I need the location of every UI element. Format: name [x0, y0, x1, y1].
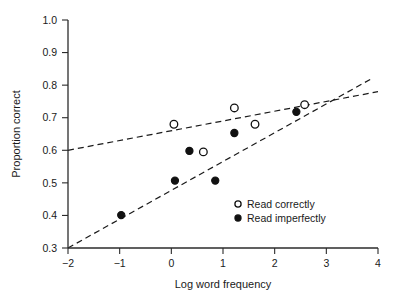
- data-point-read-correctly: [251, 120, 259, 128]
- data-point-read-imperfectly: [212, 177, 219, 184]
- data-point-read-correctly: [200, 148, 208, 156]
- y-tick-label: 0.5: [42, 177, 57, 189]
- axes-group: [68, 20, 378, 248]
- data-point-read-imperfectly: [231, 129, 238, 136]
- y-tick-label: 0.8: [42, 79, 57, 91]
- data-point-read-imperfectly: [171, 177, 178, 184]
- x-axis-ticks: −2−101234: [62, 248, 381, 269]
- fit-lines-group: [68, 78, 378, 248]
- legend-label-read-imperfectly: Read imperfectly: [247, 212, 327, 224]
- fit-line-read-imperfectly: [68, 78, 373, 248]
- x-tick-label: 3: [323, 257, 329, 269]
- data-point-read-correctly: [170, 120, 178, 128]
- y-tick-label: 0.6: [42, 144, 57, 156]
- x-axis-title: Log word frequency: [175, 278, 272, 290]
- x-tick-label: 2: [272, 257, 278, 269]
- y-tick-label: 0.7: [42, 111, 57, 123]
- data-point-read-correctly: [231, 104, 239, 112]
- x-tick-label: −1: [114, 257, 126, 269]
- x-tick-label: 1: [220, 257, 226, 269]
- legend-marker-read-imperfectly-icon: [235, 215, 241, 221]
- scatter-plot-figure: 0.30.40.50.60.70.80.91.0 −2−101234 Log w…: [0, 0, 399, 301]
- data-point-read-imperfectly: [186, 147, 193, 154]
- y-tick-label: 0.4: [42, 209, 57, 221]
- data-point-read-imperfectly: [293, 108, 300, 115]
- y-axis-ticks: 0.30.40.50.60.70.80.91.0: [42, 14, 68, 254]
- data-point-read-imperfectly: [118, 212, 125, 219]
- legend-label-read-correctly: Read correctly: [247, 198, 315, 210]
- x-tick-label: 0: [168, 257, 174, 269]
- y-tick-label: 1.0: [42, 14, 57, 26]
- legend-marker-read-correctly-icon: [235, 201, 241, 207]
- data-point-read-correctly: [301, 101, 309, 109]
- y-tick-label: 0.9: [42, 46, 57, 58]
- x-tick-label: −2: [62, 257, 74, 269]
- y-tick-label: 0.3: [42, 242, 57, 254]
- plot-canvas: 0.30.40.50.60.70.80.91.0 −2−101234 Log w…: [0, 0, 399, 301]
- x-tick-label: 4: [375, 257, 381, 269]
- y-axis-title: Proportion correct: [10, 90, 22, 177]
- legend: Read correctly Read imperfectly: [235, 198, 327, 224]
